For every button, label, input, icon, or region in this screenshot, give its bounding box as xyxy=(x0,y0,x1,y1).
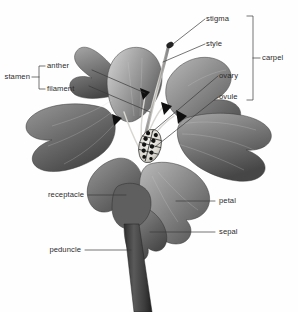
stamen-bracket xyxy=(32,66,45,89)
flower-illustration xyxy=(0,0,298,312)
leader-stigma xyxy=(173,19,205,44)
label-style: style xyxy=(206,39,222,48)
label-sepal: sepal xyxy=(219,227,238,236)
label-petal: petal xyxy=(219,196,236,205)
label-ovule: ovule xyxy=(219,92,238,101)
flower-body xyxy=(26,41,271,312)
carpel-bracket xyxy=(247,16,260,100)
petal-shape-left xyxy=(26,104,115,172)
botany-diagram-figure: stigma style ovary ovule carpel stamen a… xyxy=(0,0,298,312)
label-filament: filament xyxy=(47,84,74,93)
label-peduncle: peduncle xyxy=(18,245,81,254)
label-stamen: stamen xyxy=(0,72,30,81)
label-ovary: ovary xyxy=(219,71,238,80)
label-anther: anther xyxy=(47,61,69,70)
label-stigma: stigma xyxy=(206,14,229,23)
label-carpel: carpel xyxy=(262,53,283,62)
petal-shape-upper-middle xyxy=(107,47,162,122)
label-receptacle: receptacle xyxy=(18,190,84,199)
